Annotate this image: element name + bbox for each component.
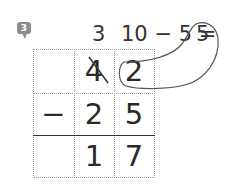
borrow-loop bbox=[119, 23, 218, 89]
annotation-strokes bbox=[0, 0, 230, 186]
strike-through-mark bbox=[89, 57, 108, 83]
